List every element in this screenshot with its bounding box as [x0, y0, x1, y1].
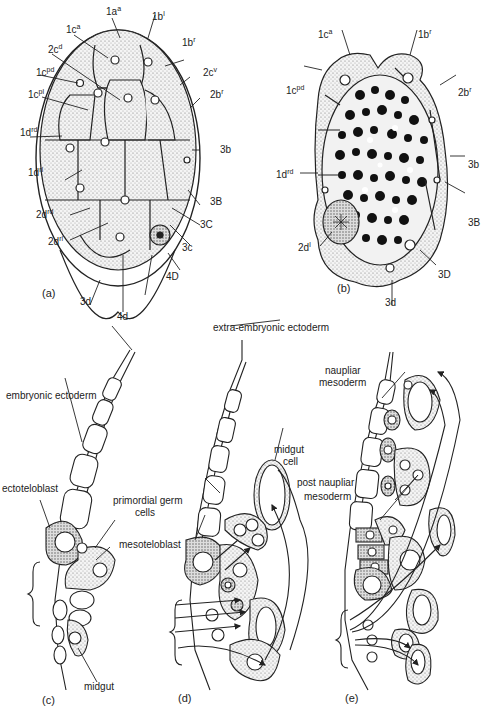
label-naupliar-mesoderm-2: mesoderm	[319, 378, 366, 388]
label-1a-a: 1aa	[106, 7, 121, 17]
panel-label-c: (c)	[42, 694, 55, 706]
label-b-2d-l: 2dl	[298, 243, 311, 253]
label-2d-rd: 2drd	[36, 210, 53, 220]
label-ectoteloblast: ectoteloblast	[2, 484, 58, 494]
label-2c-d: 2cd	[48, 45, 62, 55]
label-b-3B: 3B	[468, 218, 480, 228]
panel-label-a: (a)	[42, 287, 55, 299]
label-b-1c-a: 1ca	[318, 30, 332, 40]
panel-e-section	[336, 352, 460, 690]
label-b-1b-r: 1br	[418, 30, 431, 40]
label-midgut-cell-1: midgut	[274, 445, 304, 455]
label-1b-l: 1bl	[152, 12, 165, 22]
label-1c-pd: 1cpd	[36, 68, 54, 78]
figure-drawing	[0, 0, 488, 708]
label-b-1d-rd: 1drd	[276, 170, 293, 180]
label-4d: 4d	[117, 312, 128, 322]
panel-label-b: (b)	[337, 282, 350, 294]
label-post-naupliar-mesoderm-1: post naupliar	[297, 478, 354, 488]
panel-label-d: (d)	[178, 692, 191, 704]
panel-b-section	[300, 30, 465, 305]
label-b-2b-r: 2br	[458, 88, 471, 98]
panel-d-section	[170, 340, 308, 690]
label-extra-embryonic-ectoderm: extra-embryonic ectoderm	[213, 323, 329, 333]
label-2d-rl: 2drl	[48, 237, 63, 247]
label-primordial-germ-cells-2: cells	[135, 508, 155, 518]
label-b-1c-pd: 1cpd	[286, 86, 304, 96]
label-2c-v: 2cv	[203, 68, 217, 78]
label-3C: 3C	[200, 220, 213, 230]
label-embryonic-ectoderm: embryonic ectoderm	[6, 391, 97, 401]
panel-label-e: (e)	[345, 692, 358, 704]
label-1b-r: 1br	[182, 38, 195, 48]
label-midgut-cell-2: cell	[283, 457, 298, 467]
label-1c-pl: 1cpl	[28, 90, 44, 100]
label-3b: 3b	[220, 145, 231, 155]
label-4D: 4D	[166, 272, 179, 282]
label-1d-rl: 1drl	[28, 168, 43, 178]
label-3d-a: 3d	[80, 297, 91, 307]
label-3c: 3c	[182, 243, 193, 253]
label-b-3b: 3b	[468, 160, 479, 170]
label-b-3D: 3D	[438, 270, 451, 280]
label-mesoteloblast: mesoteloblast	[119, 540, 181, 550]
label-3B: 3B	[210, 197, 222, 207]
label-naupliar-mesoderm-1: naupliar	[325, 366, 361, 376]
label-1c-a: 1ca	[66, 25, 80, 35]
label-midgut: midgut	[84, 682, 114, 692]
label-1d-rd: 1drd	[20, 128, 37, 138]
label-post-naupliar-mesoderm-2: mesoderm	[304, 492, 351, 502]
label-b-3d: 3d	[385, 298, 396, 308]
label-2b-r: 2br	[210, 90, 223, 100]
label-primordial-germ-cells-1: primordial germ	[113, 496, 182, 506]
